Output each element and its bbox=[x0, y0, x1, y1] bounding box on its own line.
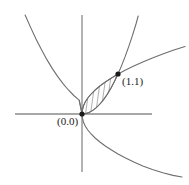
curve-x-equals-y-squared-lower bbox=[82, 114, 182, 177]
intersection-label: (1.1) bbox=[122, 76, 143, 87]
point-origin bbox=[79, 111, 84, 116]
plot-canvas bbox=[0, 0, 189, 185]
point-intersection bbox=[115, 71, 120, 76]
parabola-figure: (0.0) (1.1) bbox=[0, 0, 189, 185]
origin-label: (0.0) bbox=[57, 116, 78, 127]
shaded-region-hatch bbox=[82, 74, 118, 114]
curve-y-equals-x-squared bbox=[25, 15, 82, 114]
